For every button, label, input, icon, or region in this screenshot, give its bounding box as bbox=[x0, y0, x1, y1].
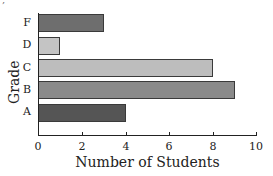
x-tick-label-4: 4 bbox=[116, 140, 136, 153]
x-axis bbox=[38, 135, 257, 136]
x-axis-title: Number of Students bbox=[38, 154, 257, 170]
x-tick-6 bbox=[169, 132, 170, 136]
y-axis-title: Grade bbox=[6, 64, 22, 104]
y-axis bbox=[38, 13, 39, 136]
x-tick-label-8: 8 bbox=[203, 140, 223, 153]
figure-corner-mark: , bbox=[2, 0, 5, 5]
x-tick-label-2: 2 bbox=[72, 140, 92, 153]
grade-bar-chart: , Grade F D C B A 0 2 4 6 8 10 Number of… bbox=[0, 0, 273, 176]
bar-f bbox=[38, 14, 104, 32]
category-label-b: B bbox=[22, 83, 32, 96]
x-tick-8 bbox=[213, 132, 214, 136]
category-label-d: D bbox=[22, 38, 32, 51]
category-label-f: F bbox=[22, 16, 32, 29]
x-tick-label-10: 10 bbox=[246, 140, 266, 153]
x-tick-4 bbox=[126, 132, 127, 136]
bar-b bbox=[38, 81, 235, 99]
bar-c bbox=[38, 59, 213, 77]
x-tick-label-6: 6 bbox=[159, 140, 179, 153]
x-tick-10 bbox=[256, 132, 257, 136]
bar-a bbox=[38, 104, 126, 122]
bar-d bbox=[38, 37, 60, 55]
x-tick-label-0: 0 bbox=[28, 140, 48, 153]
category-label-a: A bbox=[22, 105, 32, 118]
x-tick-0 bbox=[38, 132, 39, 136]
x-tick-2 bbox=[82, 132, 83, 136]
category-label-c: C bbox=[22, 61, 32, 74]
